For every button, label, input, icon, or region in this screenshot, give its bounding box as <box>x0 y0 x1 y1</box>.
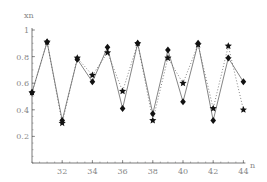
y-tick-label: 1 <box>24 26 29 35</box>
x-tick-label: 34 <box>87 167 97 176</box>
x-tick-label: 38 <box>148 167 158 176</box>
x-tick-label: 36 <box>118 167 128 176</box>
chart: 323436384042440.20.40.60.81 xn n <box>0 0 267 182</box>
x-axis-label: n <box>250 161 255 170</box>
y-tick-label: 0.4 <box>16 106 29 115</box>
star-marker <box>240 106 247 113</box>
star-marker <box>104 49 111 56</box>
y-tick-label: 0.6 <box>16 79 29 88</box>
diamond-marker <box>150 110 156 117</box>
diamond-marker <box>210 117 216 124</box>
diamond-marker <box>120 105 126 112</box>
star-marker <box>225 42 232 49</box>
x-tick-label: 40 <box>178 167 188 176</box>
y-tick-label: 0.2 <box>16 132 29 141</box>
x-tick-label: 32 <box>57 167 67 176</box>
star-marker <box>89 71 96 78</box>
axes: 323436384042440.20.40.60.81 <box>16 26 248 176</box>
star-marker <box>119 87 126 94</box>
diamond-marker <box>165 46 171 53</box>
y-axis-label: xn <box>24 11 34 20</box>
star-marker <box>179 79 186 86</box>
y-tick-label: 0.8 <box>16 53 29 62</box>
diamond-marker <box>180 98 186 105</box>
x-tick-label: 42 <box>208 167 218 176</box>
star-marker <box>149 117 156 124</box>
series-markers <box>28 38 247 126</box>
x-tick-label: 44 <box>238 167 248 176</box>
